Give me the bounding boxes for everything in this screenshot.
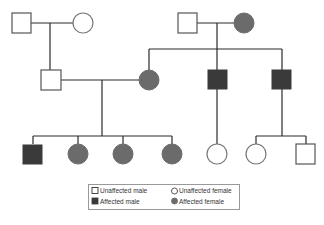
pedigree-lines — [31, 23, 306, 144]
individual-I2-unaffected-female — [73, 13, 93, 33]
individual-II1-unaffected-male — [41, 70, 61, 90]
open-circle-icon — [172, 188, 178, 194]
legend-label-unaffected-male: Unaffected male — [100, 187, 148, 194]
individual-III4-affected-female — [162, 144, 182, 164]
legend-label-affected-female: Affected female — [179, 198, 224, 205]
individual-II4-affected-male — [272, 70, 291, 89]
legend: Unaffected male Unaffected female Affect… — [89, 185, 240, 210]
pedigree-chart: Unaffected male Unaffected female Affect… — [0, 0, 324, 225]
individual-I1-unaffected-male — [12, 13, 31, 33]
filled-circle-icon — [172, 198, 178, 204]
legend-label-affected-male: Affected male — [100, 198, 140, 205]
individual-III6-unaffected-female — [246, 144, 266, 164]
individual-III2-affected-female — [68, 144, 88, 164]
individual-I4-affected-female — [234, 13, 254, 33]
individual-II2-affected-female — [139, 70, 159, 90]
individual-III5-unaffected-female — [207, 144, 227, 164]
individual-III1-affected-male — [23, 145, 42, 164]
individual-III7-unaffected-male — [296, 144, 315, 164]
filled-square-icon — [92, 198, 98, 204]
individual-I3-unaffected-male — [178, 13, 197, 33]
legend-label-unaffected-female: Unaffected female — [179, 187, 232, 194]
individual-III3-affected-female — [113, 144, 133, 164]
open-square-icon — [92, 188, 98, 194]
individual-II3-affected-male — [208, 70, 227, 89]
